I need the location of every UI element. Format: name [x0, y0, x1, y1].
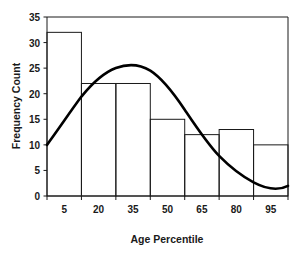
chart-figure: 35 30 25 20 15 10 5 0 5 20 35 50 65 — [0, 0, 298, 257]
y-axis-title: Frequency Count — [10, 62, 22, 149]
figure-background — [0, 0, 298, 257]
y-tick-label-15: 15 — [29, 114, 41, 125]
y-tick-label-5: 5 — [34, 165, 40, 176]
y-tick-label-20: 20 — [29, 89, 41, 100]
x-tick-label-65: 65 — [196, 204, 208, 215]
histogram-with-normal-curve: 35 30 25 20 15 10 5 0 5 20 35 50 65 — [0, 0, 298, 257]
x-tick-label-35: 35 — [128, 204, 140, 215]
x-axis-title: Age Percentile — [131, 233, 204, 245]
y-tick-label-30: 30 — [29, 38, 41, 49]
x-tick-label-80: 80 — [231, 204, 243, 215]
y-tick-label-35: 35 — [29, 12, 41, 23]
y-tick-label-10: 10 — [29, 140, 41, 151]
x-tick-label-95: 95 — [265, 204, 277, 215]
y-tick-label-25: 25 — [29, 63, 41, 74]
x-tick-label-5: 5 — [61, 204, 67, 215]
x-tick-label-50: 50 — [162, 204, 174, 215]
y-tick-label-0: 0 — [34, 191, 40, 202]
x-tick-label-20: 20 — [93, 204, 105, 215]
